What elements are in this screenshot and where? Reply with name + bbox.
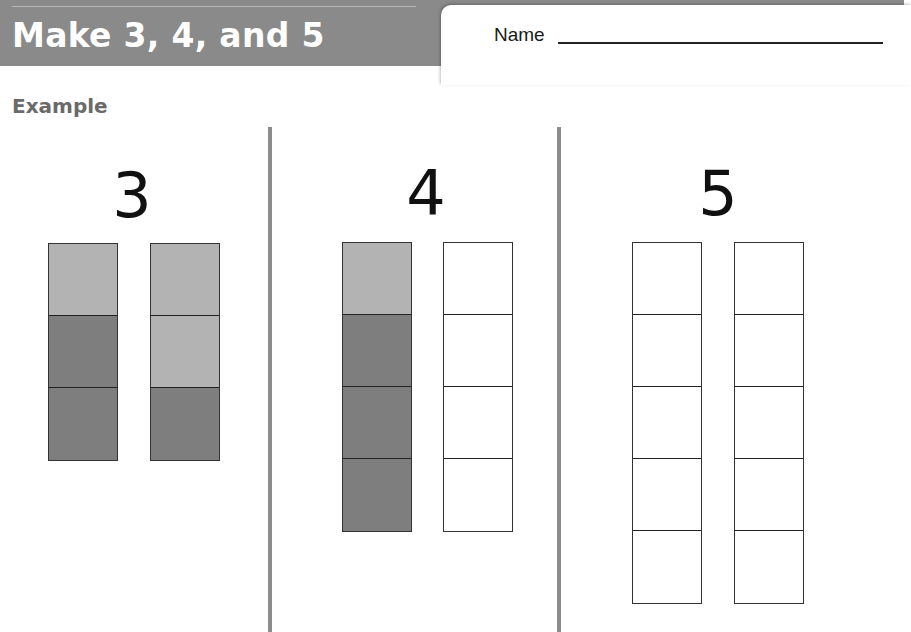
cube-empty[interactable] [735,531,803,603]
cube-empty[interactable] [633,531,701,603]
cube-empty[interactable] [735,243,803,315]
cube-empty[interactable] [633,459,701,531]
number-4-heading: 4 [386,163,466,225]
example-heading: Example [12,94,108,118]
cube-empty[interactable] [735,315,803,387]
cube-tower-3a [48,243,118,461]
lesson-rule-divider [12,6,416,7]
cube-empty[interactable] [444,315,512,387]
cube-empty[interactable] [444,387,512,459]
cube-tower-4b[interactable] [443,242,513,532]
cube-empty[interactable] [735,387,803,459]
cube-dark [343,459,411,531]
cube-light [343,243,411,315]
cube-dark [151,388,219,460]
section-divider-2 [557,127,561,632]
cube-tower-3b [150,243,220,461]
cube-empty[interactable] [735,459,803,531]
section-divider-1 [268,127,272,632]
cube-empty[interactable] [633,315,701,387]
cube-empty[interactable] [444,459,512,531]
name-label: Name [494,24,545,46]
number-5-heading: 5 [678,163,758,225]
cube-tower-4a [342,242,412,532]
cube-tower-5b[interactable] [734,242,804,604]
cube-empty[interactable] [633,387,701,459]
cube-light [151,244,219,316]
cube-empty[interactable] [633,243,701,315]
cube-empty[interactable] [444,243,512,315]
name-input-line[interactable] [558,42,883,44]
cube-light [49,244,117,316]
cube-tower-5a[interactable] [632,242,702,604]
number-3-heading: 3 [92,165,172,227]
cube-dark [343,315,411,387]
cube-light [151,316,219,388]
page-title: Make 3, 4, and 5 [12,16,325,56]
cube-dark [49,316,117,388]
cube-dark [49,388,117,460]
cube-dark [343,387,411,459]
